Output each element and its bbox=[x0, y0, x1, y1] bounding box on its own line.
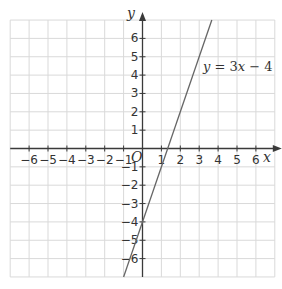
equation-label: y = 3x − 4 bbox=[202, 59, 273, 74]
x-tick-label: −6 bbox=[20, 153, 38, 167]
axes bbox=[10, 12, 282, 277]
x-tick-label: 3 bbox=[195, 153, 203, 167]
x-tick-label: 4 bbox=[214, 153, 222, 167]
x-tick-label: 2 bbox=[176, 153, 184, 167]
equation-coefficient: = 3 bbox=[210, 59, 237, 74]
y-tick-label: 5 bbox=[131, 50, 139, 64]
y-tick-label: 6 bbox=[131, 31, 139, 45]
y-axis-arrow-icon bbox=[139, 12, 146, 21]
y-tick-label: −2 bbox=[121, 178, 139, 192]
x-tick-label: −2 bbox=[96, 153, 114, 167]
x-tick-label: 5 bbox=[233, 153, 241, 167]
y-tick-label: 3 bbox=[131, 86, 139, 100]
x-tick-label: −5 bbox=[39, 153, 57, 167]
y-tick-label: 1 bbox=[131, 123, 139, 137]
x-axis-arrow-icon bbox=[273, 145, 282, 152]
y-tick-label: 4 bbox=[131, 68, 139, 82]
y-tick-label: −4 bbox=[121, 215, 139, 229]
coordinate-graph: −6−5−4−3−2−1123456−6−5−4−3−2−1123456 x y… bbox=[0, 0, 282, 289]
y-axis-label: y bbox=[126, 5, 136, 21]
equation-constant: − 4 bbox=[245, 59, 272, 74]
origin-label: O bbox=[131, 149, 143, 165]
x-axis-label: x bbox=[263, 149, 271, 165]
y-tick-label: 2 bbox=[131, 105, 139, 119]
y-tick-label: −3 bbox=[121, 197, 139, 211]
x-tick-label: −4 bbox=[58, 153, 76, 167]
x-tick-label: −3 bbox=[77, 153, 95, 167]
x-tick-label: 6 bbox=[252, 153, 260, 167]
